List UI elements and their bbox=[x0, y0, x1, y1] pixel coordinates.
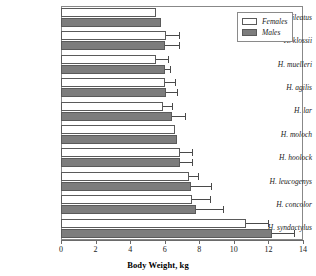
error-bar-line bbox=[246, 223, 268, 224]
chart-page: H. pileatusH. klossiiH. muelleriH. agili… bbox=[0, 0, 316, 276]
bar-female bbox=[61, 31, 166, 40]
y-axis-label: H. hoolock bbox=[255, 153, 312, 162]
bar-female bbox=[61, 102, 163, 111]
bar-female bbox=[61, 148, 180, 157]
error-bar-cap bbox=[185, 113, 186, 120]
bar-male bbox=[61, 205, 196, 214]
error-bar-cap bbox=[177, 89, 178, 96]
x-axis-tick-label: 14 bbox=[292, 245, 314, 254]
bar-female bbox=[61, 55, 156, 64]
y-axis-label: H. muelleri bbox=[255, 60, 312, 69]
legend-swatch-females-icon bbox=[242, 18, 257, 25]
bar-male bbox=[61, 135, 177, 144]
legend-item-males: Males bbox=[242, 27, 287, 38]
error-bar-line bbox=[156, 59, 168, 60]
error-bar-line bbox=[166, 35, 178, 36]
error-bar-line bbox=[180, 152, 192, 153]
x-axis-tick-label: 8 bbox=[188, 245, 210, 254]
x-axis-line bbox=[61, 240, 303, 241]
error-bar-cap bbox=[192, 159, 193, 166]
bar-male bbox=[61, 182, 191, 191]
x-axis-tick-label: 4 bbox=[119, 245, 141, 254]
bar-male bbox=[61, 112, 172, 121]
x-axis-tick bbox=[130, 240, 131, 244]
error-bar-line bbox=[189, 176, 198, 177]
x-axis-tick bbox=[234, 240, 235, 244]
bar-female bbox=[61, 125, 175, 134]
y-axis-label: H. moloch bbox=[255, 130, 312, 139]
x-axis-tick-label: 0 bbox=[50, 245, 72, 254]
bar-male bbox=[61, 88, 166, 97]
error-bar-cap bbox=[175, 79, 176, 86]
error-bar-cap bbox=[170, 66, 171, 73]
x-axis-tick-label: 6 bbox=[154, 245, 176, 254]
legend-label-males: Males bbox=[262, 28, 280, 37]
error-bar-cap bbox=[223, 206, 224, 213]
x-axis-tick-label: 10 bbox=[223, 245, 245, 254]
error-bar-line bbox=[172, 116, 186, 117]
bar-male bbox=[61, 18, 161, 27]
error-bar-cap bbox=[179, 32, 180, 39]
error-bar-cap bbox=[192, 149, 193, 156]
error-bar-line bbox=[180, 162, 192, 163]
bar-male bbox=[61, 158, 180, 167]
error-bar-cap bbox=[268, 220, 269, 227]
error-bar-line bbox=[166, 92, 176, 93]
bar-female bbox=[61, 219, 246, 228]
error-bar-line bbox=[165, 82, 175, 83]
legend-label-females: Females bbox=[262, 17, 287, 26]
error-bar-line bbox=[272, 233, 294, 234]
bar-female bbox=[61, 172, 189, 181]
x-axis-title: Body Weight, kg bbox=[0, 260, 316, 270]
error-bar-cap bbox=[168, 56, 169, 63]
error-bar-line bbox=[165, 45, 179, 46]
bar-female bbox=[61, 195, 192, 204]
error-bar-cap bbox=[294, 230, 295, 237]
error-bar-cap bbox=[210, 196, 211, 203]
bar-female bbox=[61, 78, 165, 87]
x-axis-tick bbox=[165, 240, 166, 244]
x-axis-tick-label: 2 bbox=[85, 245, 107, 254]
y-axis-label: H. concolor bbox=[255, 200, 312, 209]
x-axis-tick bbox=[61, 240, 62, 244]
error-bar-cap bbox=[211, 183, 212, 190]
error-bar-line bbox=[196, 209, 224, 210]
bar-male bbox=[61, 65, 165, 74]
legend-swatch-males-icon bbox=[242, 29, 257, 36]
bar-female bbox=[61, 8, 156, 17]
error-bar-cap bbox=[198, 173, 199, 180]
error-bar-cap bbox=[179, 42, 180, 49]
error-bar-line bbox=[163, 106, 172, 107]
y-axis-label: H. leucogenys bbox=[255, 177, 312, 186]
x-axis-tick bbox=[199, 240, 200, 244]
error-bar-line bbox=[191, 186, 212, 187]
x-axis-tick bbox=[96, 240, 97, 244]
y-axis-label: H. lar bbox=[255, 106, 312, 115]
x-axis-tick-label: 12 bbox=[257, 245, 279, 254]
y-axis-label: H. agilis bbox=[255, 83, 312, 92]
x-axis-tick bbox=[268, 240, 269, 244]
bar-male bbox=[61, 41, 165, 50]
bar-male bbox=[61, 229, 272, 238]
legend: Females Males bbox=[237, 12, 293, 42]
x-axis-tick bbox=[303, 240, 304, 244]
error-bar-cap bbox=[172, 103, 173, 110]
error-bar-line bbox=[192, 199, 209, 200]
legend-item-females: Females bbox=[242, 16, 287, 27]
